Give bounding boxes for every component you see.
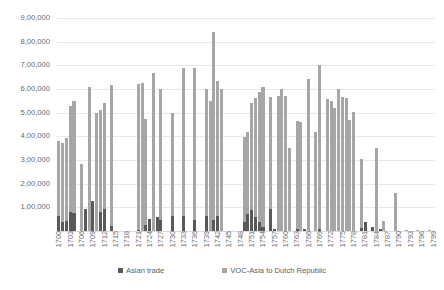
legend-item[interactable]: VOC-Asia to Dutch Republic <box>222 266 326 275</box>
bar-voc-asia-to-dutch-republic <box>318 65 321 231</box>
bar-group <box>171 18 174 231</box>
bar-asian-trade <box>69 212 72 231</box>
bar-voc-asia-to-dutch-republic <box>243 137 246 231</box>
x-axis-tick-label: 1757 <box>271 231 278 247</box>
bar-group <box>141 18 144 231</box>
bar-group <box>318 18 321 231</box>
bar-voc-asia-to-dutch-republic <box>333 108 336 231</box>
bar-group <box>137 18 140 231</box>
bar-voc-asia-to-dutch-republic <box>220 89 223 231</box>
bar-asian-trade <box>61 222 64 231</box>
bar-voc-asia-to-dutch-republic <box>348 120 351 231</box>
bar-group <box>416 18 419 231</box>
bar-group <box>133 18 136 231</box>
bar-group <box>84 18 87 231</box>
bar-group <box>311 18 314 231</box>
bar-voc-asia-to-dutch-republic <box>296 121 299 231</box>
bar-group <box>428 18 431 231</box>
bar-group <box>163 18 166 231</box>
bar-group <box>280 18 283 231</box>
bar-group <box>352 18 355 231</box>
bar-voc-asia-to-dutch-republic <box>277 96 280 231</box>
bar-group <box>88 18 91 231</box>
bar-group <box>401 18 404 231</box>
bar-asian-trade <box>159 220 162 231</box>
bar-group <box>69 18 72 231</box>
bar-group <box>250 18 253 231</box>
chart-legend: Asian tradeVOC-Asia to Dutch Republic <box>0 266 444 275</box>
bar-group <box>367 18 370 231</box>
plot-area <box>57 18 435 231</box>
x-axis-tick-label: 1778 <box>350 231 357 247</box>
bar-asian-trade <box>65 221 68 231</box>
bar-voc-asia-to-dutch-republic <box>284 96 287 231</box>
bar-group <box>122 18 125 231</box>
x-axis-tick-label: 1769 <box>316 231 323 247</box>
x-axis: 1700170317061709171217151718172117241727… <box>57 231 435 261</box>
x-axis-tick-label: 1742 <box>214 231 221 247</box>
x-axis-tick-label: 1787 <box>384 231 391 247</box>
bar-group <box>269 18 272 231</box>
bar-group <box>386 18 389 231</box>
bar-group <box>72 18 75 231</box>
bar-voc-asia-to-dutch-republic <box>88 87 91 231</box>
x-axis-tick-label: 1760 <box>282 231 289 247</box>
bar-group <box>254 18 257 231</box>
bar-voc-asia-to-dutch-republic <box>182 68 185 231</box>
bar-asian-trade <box>103 209 106 231</box>
x-axis-tick-label: 1727 <box>157 231 164 247</box>
bar-voc-asia-to-dutch-republic <box>152 73 155 231</box>
x-axis-tick-label: 1733 <box>180 231 187 247</box>
bar-voc-asia-to-dutch-republic <box>382 221 385 231</box>
bar-group <box>220 18 223 231</box>
bar-group <box>326 18 329 231</box>
bar-group <box>197 18 200 231</box>
bar-voc-asia-to-dutch-republic <box>280 89 283 231</box>
bar-group <box>99 18 102 231</box>
legend-label: Asian trade <box>126 266 164 275</box>
bar-voc-asia-to-dutch-republic <box>288 148 291 231</box>
bar-voc-asia-to-dutch-republic <box>330 101 333 231</box>
bar-voc-asia-to-dutch-republic <box>193 68 196 231</box>
bar-voc-asia-to-dutch-republic <box>254 98 257 231</box>
bar-asian-trade <box>91 201 94 231</box>
bar-voc-asia-to-dutch-republic <box>141 83 144 231</box>
chart-container: 1,00,0002,00,0003,00,0004,00,0005,00,000… <box>0 0 444 290</box>
bar-asian-trade <box>243 222 246 231</box>
bar-group <box>273 18 276 231</box>
y-axis-tick-label: 8,00,000 <box>2 37 50 46</box>
bar-group <box>258 18 261 231</box>
bar-group <box>190 18 193 231</box>
x-axis-tick-label: 1715 <box>112 231 119 247</box>
bar-asian-trade <box>84 209 87 231</box>
bar-group <box>394 18 397 231</box>
bar-group <box>227 18 230 231</box>
y-axis-tick-label: 1,00,000 <box>2 202 50 211</box>
bar-asian-trade <box>246 214 249 231</box>
y-axis-tick-label: 6,00,000 <box>2 84 50 93</box>
x-axis-tick-label: 1763 <box>293 231 300 247</box>
bar-group <box>330 18 333 231</box>
bar-voc-asia-to-dutch-republic <box>299 122 302 231</box>
bar-group <box>61 18 64 231</box>
bar-group <box>148 18 151 231</box>
x-axis-tick-label: 1703 <box>67 231 74 247</box>
bar-group <box>175 18 178 231</box>
bar-voc-asia-to-dutch-republic <box>337 89 340 231</box>
bar-group <box>277 18 280 231</box>
bar-group <box>432 18 435 231</box>
bar-group <box>322 18 325 231</box>
bar-group <box>409 18 412 231</box>
bar-asian-trade <box>212 220 215 231</box>
bar-voc-asia-to-dutch-republic <box>375 148 378 231</box>
bar-voc-asia-to-dutch-republic <box>261 87 264 231</box>
bar-group <box>390 18 393 231</box>
bar-group <box>284 18 287 231</box>
y-axis-tick-label: 9,00,000 <box>2 13 50 22</box>
legend-item[interactable]: Asian trade <box>118 266 164 275</box>
bar-group <box>159 18 162 231</box>
bar-voc-asia-to-dutch-republic <box>326 99 329 231</box>
bar-voc-asia-to-dutch-republic <box>307 79 310 231</box>
bar-group <box>398 18 401 231</box>
bar-group <box>156 18 159 231</box>
